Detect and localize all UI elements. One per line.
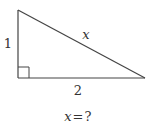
hypotenuse	[18, 10, 145, 78]
question-equals: =	[73, 109, 84, 123]
triangle	[18, 10, 145, 78]
hypotenuse-label: x	[82, 27, 90, 42]
question: x = ?	[64, 109, 91, 123]
horizontal-leg-label: 2	[74, 83, 82, 98]
question-variable: x	[64, 109, 72, 123]
question-unknown: ?	[85, 109, 92, 123]
triangle-diagram: 1 x 2 x = ?	[0, 0, 155, 123]
right-angle-marker	[18, 67, 29, 78]
vertical-leg-label: 1	[4, 36, 12, 51]
